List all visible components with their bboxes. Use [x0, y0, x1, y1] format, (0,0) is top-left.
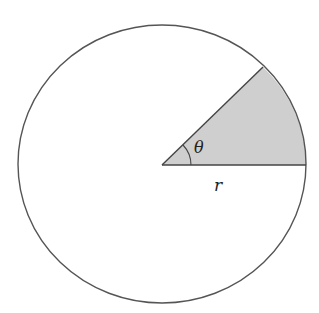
- theta-label: θ: [194, 138, 204, 157]
- radius-label: r: [214, 175, 223, 195]
- sector-diagram: θ r: [0, 0, 319, 313]
- shaded-sector: [162, 67, 306, 165]
